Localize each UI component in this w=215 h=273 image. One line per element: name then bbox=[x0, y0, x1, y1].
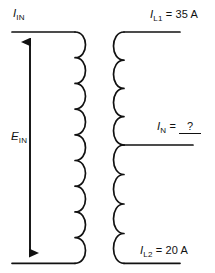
primary-voltage-symbol: E bbox=[11, 130, 19, 142]
line1-current-label: IL1 = 35 A bbox=[150, 9, 198, 21]
line2-current-subscript: L2 bbox=[143, 250, 152, 259]
secondary-winding-group bbox=[114, 32, 194, 263]
line2-current-value: 20 A bbox=[165, 244, 187, 256]
primary-coil-path bbox=[75, 32, 86, 263]
primary-winding-group bbox=[12, 32, 86, 263]
secondary-coil-upper bbox=[114, 32, 125, 145]
primary-current-subscript: IN bbox=[16, 13, 24, 22]
schematic-drawing bbox=[0, 0, 215, 273]
primary-current-label: IIN bbox=[13, 8, 25, 20]
primary-voltage-subscript: IN bbox=[19, 136, 27, 145]
neutral-current-label: IN = ? bbox=[157, 121, 201, 134]
line2-current-label: IL2 = 20 A bbox=[140, 245, 188, 257]
secondary-coil-lower bbox=[114, 145, 125, 263]
transformer-diagram: IIN EIN IL1 = 35 A IN = ? IL2 = 20 A bbox=[0, 0, 215, 273]
neutral-current-answer-blank[interactable]: ? bbox=[179, 121, 201, 134]
primary-voltage-label: EIN bbox=[11, 131, 27, 143]
neutral-current-subscript: N bbox=[160, 126, 166, 135]
line1-current-value: 35 A bbox=[175, 8, 197, 20]
line1-current-subscript: L1 bbox=[153, 14, 162, 23]
